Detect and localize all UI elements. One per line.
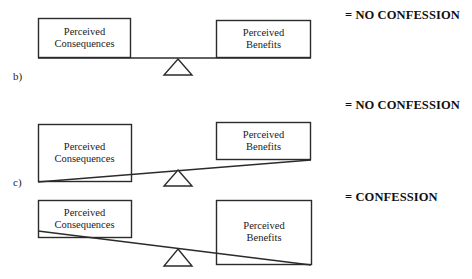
panel-c-fulcrum-icon (164, 249, 192, 266)
figure-canvas (0, 0, 472, 279)
panel-a-left-box (39, 19, 131, 58)
outcome-label-a: = NO CONFESSION (345, 9, 460, 22)
panel-b (38, 123, 311, 187)
panel-b-fulcrum-icon (164, 170, 192, 186)
panel-a-fulcrum-icon (164, 59, 192, 75)
panel-b-left-box (39, 125, 132, 182)
panel-label-b: b) (13, 71, 22, 82)
outcome-label-b: = NO CONFESSION (345, 99, 460, 112)
panel-a (38, 19, 311, 76)
outcome-label-c: = CONFESSION (345, 191, 438, 204)
panel-a-right-box (217, 21, 311, 58)
panel-c (38, 201, 312, 267)
panel-label-c: c) (13, 177, 22, 188)
panel-c-left-box (39, 201, 132, 238)
panel-b-right-box (217, 123, 311, 160)
